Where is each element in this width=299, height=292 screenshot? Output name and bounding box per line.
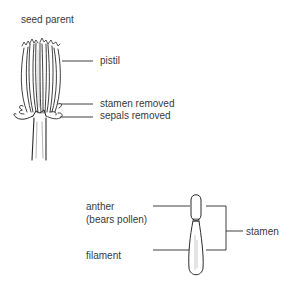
top-leader-lines — [60, 61, 93, 117]
anther-note-label: (bears pollen) — [86, 214, 147, 226]
seed-parent-title: seed parent — [21, 14, 74, 26]
stamen-illustration — [189, 195, 203, 275]
anther-label: anther — [86, 201, 114, 213]
stamen-label: stamen — [246, 226, 279, 238]
stamen-removed-label: stamen removed — [100, 98, 174, 110]
diagram-artwork — [0, 0, 299, 292]
pistil-label: pistil — [100, 55, 120, 67]
stamen-bracket — [206, 206, 226, 250]
sepals-removed-label: sepals removed — [100, 110, 171, 122]
filament-label: filament — [86, 250, 121, 262]
flower-illustration — [14, 38, 62, 160]
